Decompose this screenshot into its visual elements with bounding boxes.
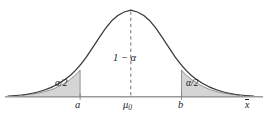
confidence-interval-figure: α/2 α/2 1 − α a μ0 b x [0,0,268,123]
axis-tick-label-a: a [75,100,80,111]
axis-tick-label-b: b [178,100,183,111]
axis-tick-label-mu-zero: μ0 [123,100,132,111]
mu-subscript: 0 [128,103,132,112]
x-axis-name-label: x [245,100,249,110]
right-tail-alpha-label: α/2 [186,79,198,89]
confidence-level-label: 1 − α [113,53,136,64]
left-tail-alpha-label: α/2 [55,79,67,89]
x-bar-symbol: x [245,100,249,110]
